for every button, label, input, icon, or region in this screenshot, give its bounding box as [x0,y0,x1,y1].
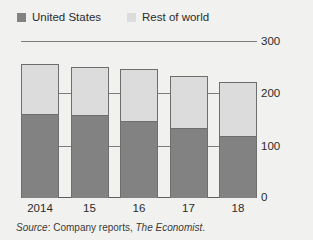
x-axis-tick-16: 16 [120,201,158,217]
legend-swatch-square-icon [17,13,26,22]
bar-segment-rest-of-world[interactable] [170,76,208,129]
x-axis-tick-2014: 2014 [21,201,59,217]
y-axis-tick-200: 200 [261,87,280,99]
bar-segment-rest-of-world[interactable] [71,67,109,115]
bar-group[interactable] [120,41,158,198]
chart-legend: United States Rest of world [17,9,209,25]
x-axis-tick-15: 15 [71,201,109,217]
bar-series-container [21,41,257,198]
legend-entry-rest-of-world: Rest of world [127,11,209,23]
legend-label-rest-of-world: Rest of world [142,11,209,23]
x-axis-tick-18: 18 [219,201,257,217]
x-axis-labels: 2014 15 16 17 18 [21,201,257,217]
chart-figure: United States Rest of world 300 200 100 … [0,0,313,240]
y-axis-tick-100: 100 [261,140,280,152]
source-label: Source [16,222,48,233]
legend-label-united-states: United States [32,11,101,23]
bar-segment-united-states[interactable] [170,128,208,198]
plot-area [21,41,257,198]
bar-segment-rest-of-world[interactable] [219,82,257,136]
source-period: . [202,222,205,233]
bar-segment-united-states[interactable] [21,114,59,198]
bar-segment-united-states[interactable] [120,121,158,198]
bar-group[interactable] [170,41,208,198]
y-axis-labels: 300 200 100 0 [261,0,305,240]
x-axis-tick-17: 17 [170,201,208,217]
bar-segment-rest-of-world[interactable] [21,64,59,114]
legend-swatch-square-icon [127,13,136,22]
bar-group[interactable] [71,41,109,198]
bar-segment-united-states[interactable] [219,136,257,198]
y-axis-tick-0: 0 [261,191,267,203]
bar-group[interactable] [21,41,59,198]
legend-entry-united-states: United States [17,11,101,23]
bar-group[interactable] [219,41,257,198]
source-note: Source: Company reports, The Economist. [16,222,205,234]
bar-segment-united-states[interactable] [71,115,109,198]
source-text: Company reports, [53,222,135,233]
source-publication: The Economist [136,222,203,233]
y-axis-tick-300: 300 [261,35,280,47]
bar-segment-rest-of-world[interactable] [120,69,158,120]
